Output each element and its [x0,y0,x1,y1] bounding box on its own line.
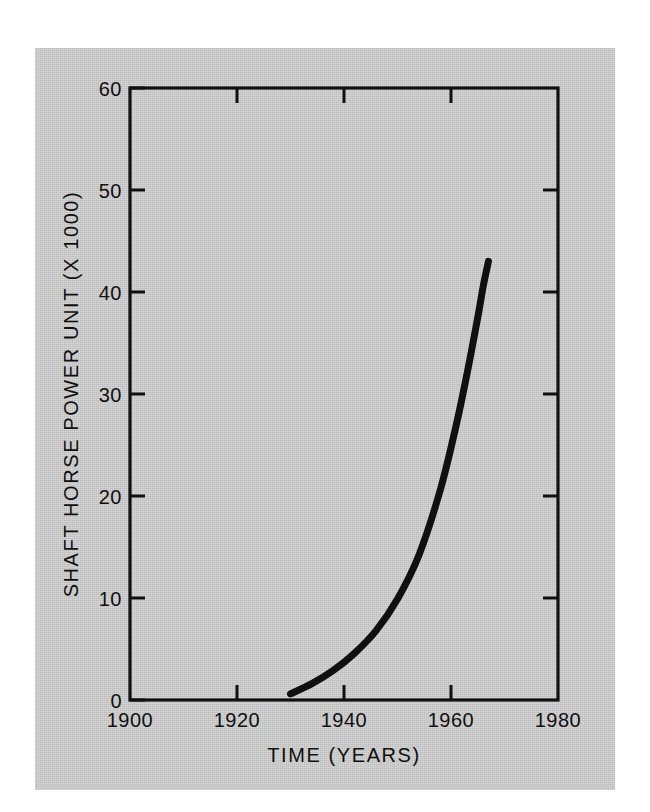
x-tick-labels: 1900 1920 1940 1960 1980 [107,709,582,731]
y-tick-label-30: 30 [99,384,122,406]
y-tick-label-50: 50 [99,180,122,202]
line-chart: 0 10 20 30 40 50 60 1900 1920 1940 1960 … [0,0,650,812]
x-tick-label-1900: 1900 [107,709,154,731]
x-tick-label-1980: 1980 [535,709,582,731]
y-tick-label-20: 20 [99,486,122,508]
y-axis-ticks [130,88,145,700]
y-tick-label-60: 60 [99,78,122,100]
plot-frame [130,88,558,700]
x-axis-title: TIME (YEARS) [267,744,421,766]
x-axis-ticks [237,685,451,700]
x-tick-label-1940: 1940 [321,709,368,731]
data-series-line [291,261,489,693]
y-tick-label-40: 40 [99,282,122,304]
y-tick-labels: 0 10 20 30 40 50 60 [99,78,122,712]
axes-border [130,88,558,700]
x-tick-label-1960: 1960 [428,709,475,731]
y-axis-title: SHAFT HORSE POWER UNIT (X 1000) [60,191,82,598]
y-tick-label-10: 10 [99,588,122,610]
y-axis-ticks-right [543,190,558,598]
x-tick-label-1920: 1920 [214,709,261,731]
figure-root: 0 10 20 30 40 50 60 1900 1920 1940 1960 … [0,0,650,812]
x-axis-ticks-top [237,88,451,103]
